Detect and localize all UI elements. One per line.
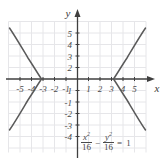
y-tick-label: 4 xyxy=(68,40,73,50)
equation-lhs-numerator: x2 xyxy=(82,133,91,142)
y-tick-label: -2 xyxy=(65,109,73,119)
y-tick-label: -3 xyxy=(65,121,73,131)
equation-lhs-fraction: x2 16 xyxy=(81,133,92,152)
x-tick-label: -5 xyxy=(16,84,24,94)
y-tick-label: 3 xyxy=(67,52,73,62)
y-tick-label: 1 xyxy=(68,86,73,96)
hyperbola-figure: -5 -4 -3 -2 -1 1 2 3 4 5 5 4 3 2 1 -1 -2… xyxy=(0,0,166,164)
equation-rhs-exponent: 2 xyxy=(109,131,112,137)
x-axis-label: x xyxy=(154,82,160,94)
y-tick-label: -4 xyxy=(65,132,73,142)
x-tick-label: 1 xyxy=(86,84,91,94)
equation-rhs-denominator: 16 xyxy=(103,142,114,152)
equation-lhs-exponent: 2 xyxy=(87,131,90,137)
y-tick-label: 2 xyxy=(68,63,73,73)
equation-equals-sign: = xyxy=(117,138,122,148)
y-axis-label: y xyxy=(65,7,71,19)
equation-operator: − xyxy=(95,138,100,148)
x-tick-label: -3 xyxy=(39,84,47,94)
equation-result: 1 xyxy=(126,138,131,148)
equation-label: x2 16 − y2 16 = 1 xyxy=(80,133,133,152)
x-tick-label: 2 xyxy=(98,84,103,94)
y-tick-label: -1 xyxy=(65,98,73,108)
x-tick-label: 3 xyxy=(108,84,114,94)
x-tick-label: 5 xyxy=(132,84,137,94)
y-tick-label: 5 xyxy=(68,29,73,39)
equation-rhs-numerator: y2 xyxy=(104,133,113,142)
equation-lhs-denominator: 16 xyxy=(81,142,92,152)
equation-rhs-fraction: y2 16 xyxy=(103,133,114,152)
x-tick-label: -2 xyxy=(51,84,59,94)
y-axis-arrow xyxy=(75,9,81,17)
